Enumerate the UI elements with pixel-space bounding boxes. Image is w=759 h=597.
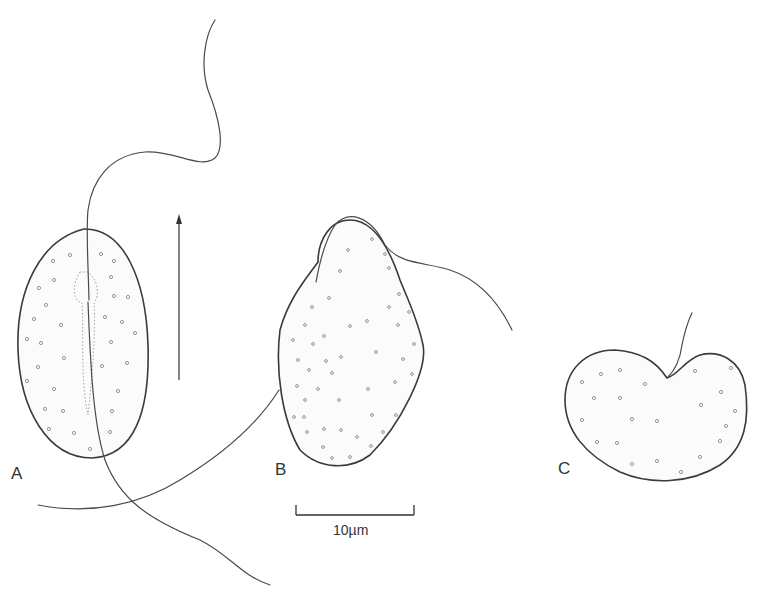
scale-bar — [296, 505, 414, 515]
panel-label-a: A — [11, 464, 22, 484]
panel-label-b: B — [275, 460, 286, 480]
panel-label-c: C — [558, 459, 570, 479]
cell-c — [565, 313, 747, 481]
illustration-canvas — [0, 0, 759, 597]
direction-arrow — [176, 214, 182, 380]
scale-bar-label: 10µm — [333, 522, 368, 538]
cell-a — [18, 20, 270, 585]
